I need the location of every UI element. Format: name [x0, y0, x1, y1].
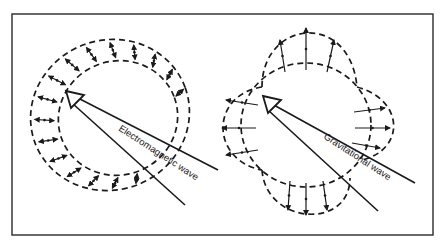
gw-lobe-right — [357, 87, 394, 160]
gw-field-arrows — [222, 28, 390, 215]
em-beam-upper — [76, 97, 218, 170]
gravitational-panel: Gravitational wave — [222, 28, 415, 215]
gw-arrowhead-icon — [263, 96, 281, 113]
gw-label: Gravitational wave — [322, 130, 394, 182]
gw-inner-ring — [241, 63, 371, 187]
gw-lobe-top — [262, 33, 357, 87]
wave-polarization-diagram: Electromagnetic wave Gravitational wave — [0, 0, 442, 245]
em-field-arrows — [35, 43, 184, 189]
figure-frame — [12, 14, 433, 235]
electromagnetic-panel: Electromagnetic wave — [9, 17, 218, 213]
